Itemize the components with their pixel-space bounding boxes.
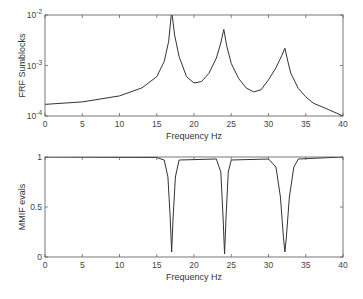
y-tick-label: 10-4: [27, 109, 43, 121]
x-tick-label: 10: [115, 119, 125, 129]
x-tick-label: 15: [152, 260, 162, 270]
x-tick-label: 0: [43, 260, 48, 270]
x-tick-label: 40: [338, 119, 348, 129]
data-curve: [45, 11, 343, 116]
x-tick-label: 30: [264, 119, 274, 129]
data-curve: [45, 157, 343, 254]
frf-plot: 051015202530354010-410-310-2Frequency Hz…: [17, 8, 348, 141]
x-tick-label: 25: [227, 260, 237, 270]
x-tick-label: 30: [264, 260, 274, 270]
mmif-plot: 051015202530354000.51Frequency HzMMIF ev…: [17, 152, 348, 282]
axes-frame: [45, 157, 343, 257]
x-tick-label: 40: [338, 260, 348, 270]
x-tick-label: 35: [301, 119, 311, 129]
x-axis-label: Frequency Hz: [166, 131, 223, 141]
x-tick-label: 5: [80, 119, 85, 129]
x-tick-label: 5: [80, 260, 85, 270]
x-tick-label: 35: [301, 260, 311, 270]
y-tick-label: 10-2: [27, 8, 43, 20]
y-axis-label: FRF Sumblocks: [17, 33, 27, 98]
x-axis-label: Frequency Hz: [166, 272, 223, 282]
x-tick-label: 20: [189, 119, 199, 129]
x-tick-label: 25: [227, 119, 237, 129]
y-tick-label: 1: [37, 152, 42, 162]
x-tick-label: 15: [152, 119, 162, 129]
figure: 051015202530354010-410-310-2Frequency Hz…: [0, 0, 363, 299]
x-tick-label: 10: [115, 260, 125, 270]
x-tick-label: 0: [43, 119, 48, 129]
y-axis-label: MMIF evals: [17, 183, 27, 230]
y-tick-label: 0.5: [30, 202, 42, 212]
y-tick-label: 0: [37, 252, 42, 262]
y-tick-label: 10-3: [27, 59, 43, 71]
x-tick-label: 20: [189, 260, 199, 270]
